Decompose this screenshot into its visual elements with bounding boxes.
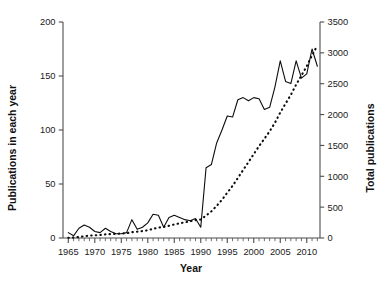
x-tick-label: 1965 [58,247,79,257]
x-tick-label: 1985 [164,247,185,257]
x-tick-label: 2000 [243,247,264,257]
y2-tick-label: 0 [328,233,333,243]
x-tick-label: 2005 [270,247,291,257]
y-tick-label: 150 [40,71,56,81]
y2-tick-label: 3500 [328,17,349,27]
x-tick-label: 1990 [190,247,211,257]
series-annual-publications [68,49,317,236]
series-group [68,46,317,238]
chart-canvas: 0501001502000500100015002000250030003500… [0,0,389,284]
publications-chart: 0501001502000500100015002000250030003500… [0,0,389,284]
y2-axis-title: Total publications [364,103,376,192]
series-total-publications [68,46,317,238]
x-tick-label: 1980 [137,247,158,257]
y2-tick-label: 1500 [328,141,349,151]
x-axis-title: Year [180,262,202,274]
x-tick-label: 1975 [111,247,132,257]
y-tick-label: 0 [50,233,55,243]
y2-tick-label: 2000 [328,110,349,120]
y-tick-label: 100 [40,125,56,135]
y-tick-label: 200 [40,17,56,27]
tick-labels-group: 0501001502000500100015002000250030003500… [40,17,348,256]
axes-group [63,22,320,238]
y-tick-label: 50 [45,179,55,189]
y2-tick-label: 3000 [328,48,349,58]
y-axis-title: Publications in each year [6,85,18,211]
y2-tick-label: 2500 [328,79,349,89]
x-tick-label: 1995 [217,247,238,257]
ticks-group [59,22,324,243]
x-tick-label: 1970 [84,247,105,257]
y2-tick-label: 1000 [328,172,349,182]
x-tick-label: 2010 [296,247,317,257]
y2-tick-label: 500 [328,203,344,213]
